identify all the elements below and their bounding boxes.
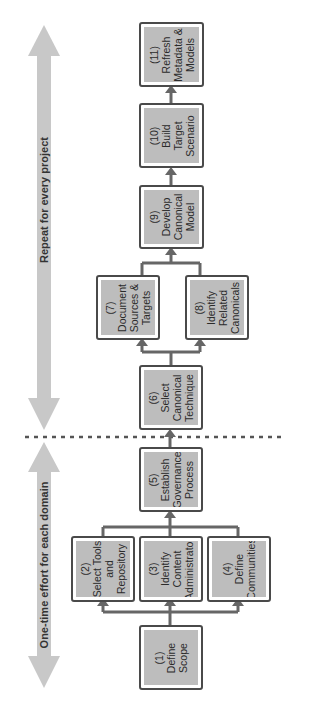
step-11-label: (11) Refresh Metadata & Models — [148, 28, 196, 82]
step-9-label: (9) Develop Canonical Model — [148, 194, 196, 241]
step-1-label: (1) Define Scope — [153, 642, 189, 672]
step-2-label: (2) Select Tools and Repository — [79, 541, 127, 597]
step-7-box: (7) Document Sources & Targets — [96, 275, 160, 340]
step-4-label: (4) Define Communities — [221, 541, 257, 597]
step-3-label: (3) Identify Content Administrator — [147, 541, 195, 597]
phase-label-onetime: One-time effort for each domain — [38, 482, 50, 649]
step-4-box: (4) Define Communities — [207, 536, 271, 602]
step-8-label: (8) Identify Related Canonicals — [193, 282, 241, 334]
step-8-box: (8) Identify Related Canonicals — [185, 275, 249, 340]
step-10-box: (10) Build Target Scenario — [139, 103, 204, 168]
step-1-box: (1) Define Scope — [139, 625, 203, 690]
step-10-label: (10) Build Target Scenario — [148, 115, 196, 156]
step-7-label: (7) Document Sources & Targets — [104, 283, 152, 331]
step-11-box: (11) Refresh Metadata & Models — [139, 22, 204, 87]
step-5-box: (5) Establish Governance Process — [139, 447, 203, 512]
step-3-box: (3) Identify Content Administrator — [139, 536, 203, 602]
step-5-label: (5) Establish Governance Process — [147, 452, 195, 507]
step-9-box: (9) Develop Canonical Model — [139, 185, 204, 249]
step-2-box: (2) Select Tools and Repository — [71, 536, 135, 602]
step-6-box: (6) Select Canonical Technique — [139, 365, 203, 430]
phase-label-repeat: Repeat for every project — [38, 137, 50, 263]
step-6-label: (6) Select Canonical Technique — [147, 374, 195, 422]
